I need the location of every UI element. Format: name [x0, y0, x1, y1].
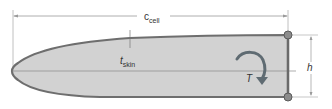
torque-label: T	[246, 73, 253, 84]
node-top	[284, 31, 292, 39]
airfoil-cell-body	[12, 35, 288, 97]
airfoil-cell-diagram: ccell tskin h T	[0, 0, 332, 109]
height-dimension: h	[292, 35, 318, 97]
node-bottom	[284, 93, 292, 101]
height-arrowhead-bottom	[310, 92, 313, 96]
chord-label: ccell	[144, 11, 160, 24]
chord-arrowhead-left	[13, 15, 18, 18]
height-label: h	[307, 62, 313, 73]
chord-arrowhead-right	[283, 15, 288, 18]
height-arrowhead-top	[310, 36, 313, 40]
